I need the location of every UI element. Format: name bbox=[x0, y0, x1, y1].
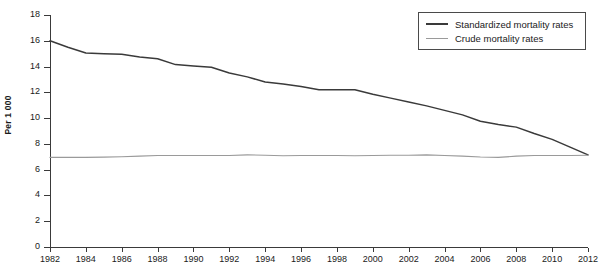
legend-label-standardized: Standardized mortality rates bbox=[455, 19, 573, 30]
legend-line-icon-crude bbox=[426, 38, 448, 39]
legend-item-crude: Crude mortality rates bbox=[419, 31, 585, 45]
x-axis-tick bbox=[588, 248, 589, 252]
legend-label-crude: Crude mortality rates bbox=[455, 33, 543, 44]
series-line-standardized bbox=[50, 41, 588, 155]
series-line-crude bbox=[50, 155, 588, 158]
chart-legend: Standardized mortality rates Crude morta… bbox=[418, 12, 586, 50]
legend-line-icon-standardized bbox=[426, 23, 448, 25]
legend-item-standardized: Standardized mortality rates bbox=[419, 17, 585, 31]
